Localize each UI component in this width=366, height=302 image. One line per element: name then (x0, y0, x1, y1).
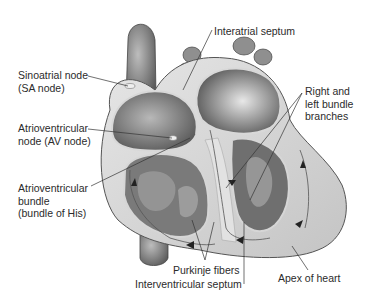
label-bundle-branches-line2: left bundle (305, 98, 353, 111)
sa-node (125, 84, 135, 89)
heart-illustration (0, 0, 366, 302)
label-purkinje-fibers: Purkinje fibers (173, 264, 240, 277)
label-av-bundle-line2: bundle (18, 195, 88, 208)
label-purkinje-fibers-line1: Purkinje fibers (173, 264, 240, 277)
label-av-node: Atrioventricular node (AV node) (18, 122, 91, 147)
label-interatrial-septum-line1: Interatrial septum (214, 25, 295, 38)
left-atrium (196, 69, 280, 134)
label-av-bundle: Atrioventricular bundle (bundle of His) (18, 182, 88, 220)
label-bundle-branches-line1: Right and (305, 85, 353, 98)
label-bundle-branches-line3: branches (305, 110, 353, 123)
label-sa-node: Sinoatrial node (SA node) (18, 69, 88, 94)
label-sa-node-line2: (SA node) (18, 82, 88, 95)
label-av-bundle-line3: (bundle of His) (18, 207, 88, 220)
label-interventricular-septum: Interventricular septum (135, 278, 242, 291)
label-bundle-branches: Right and left bundle branches (305, 85, 353, 123)
label-interventricular-septum-line1: Interventricular septum (135, 278, 242, 291)
label-apex: Apex of heart (278, 272, 340, 285)
label-av-node-line1: Atrioventricular (18, 122, 91, 135)
label-apex-line1: Apex of heart (278, 272, 340, 285)
label-sa-node-line1: Sinoatrial node (18, 69, 88, 82)
label-av-node-line2: node (AV node) (18, 135, 91, 148)
right-atrium (112, 91, 197, 150)
label-interatrial-septum: Interatrial septum (214, 25, 295, 38)
label-av-bundle-line1: Atrioventricular (18, 182, 88, 195)
